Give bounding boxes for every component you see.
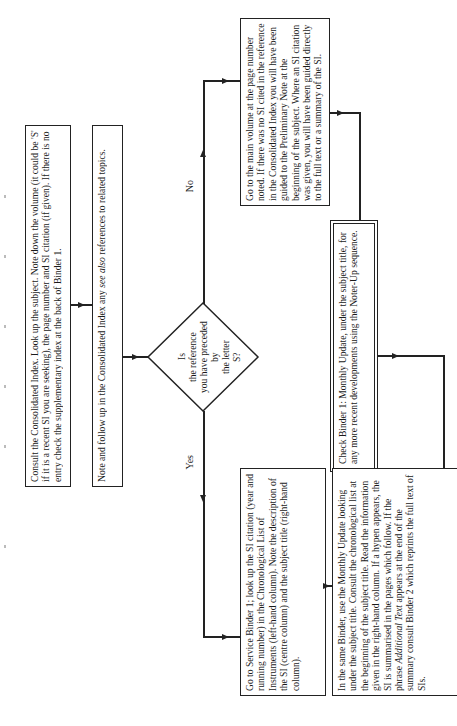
margin-mark: [4, 545, 6, 548]
connector-line: [378, 355, 445, 357]
arrow-right-icon: [323, 583, 330, 589]
margin-mark: [4, 195, 6, 198]
arrow-right-icon: [222, 634, 229, 640]
same-binder-box: In the same Binder, use the Monthly Upda…: [332, 468, 457, 696]
check-binder-box: Check Binder 1: Monthly Update, under th…: [330, 220, 378, 472]
consult-index-box: Consult the Consolidated Index. Look up …: [25, 125, 71, 487]
consult-index-text: Consult the Consolidated Index. Look up …: [26, 126, 70, 486]
service-binder-text: Go to Service Binder 1; look up the SI c…: [241, 469, 325, 695]
main-volume-text: Go to the main volume at the page number…: [241, 19, 329, 205]
arrow-right-icon: [132, 354, 139, 360]
check-binder-text: Check Binder 1: Monthly Update, under th…: [334, 224, 374, 468]
connector-line: [359, 112, 361, 220]
arrow-up-icon: [200, 150, 206, 157]
arrow-right-icon: [222, 78, 229, 84]
arrow-right-icon: [392, 353, 399, 359]
follow-up-box: Note and follow up in the Consolidated I…: [92, 125, 123, 487]
yes-label: Yes: [184, 455, 195, 470]
arrow-right-icon: [337, 110, 344, 116]
yes-branch-line: [203, 411, 205, 637]
no-branch-line: [203, 80, 205, 304]
no-label: No: [184, 180, 195, 192]
arrow-right-icon: [78, 302, 85, 308]
margin-mark: [4, 385, 6, 388]
same-binder-text: In the same Binder, use the Monthly Upda…: [333, 469, 457, 695]
connector-line: [443, 355, 445, 475]
arrow-down-icon: [200, 495, 206, 502]
connector-line: [330, 112, 360, 114]
margin-mark: [4, 255, 6, 258]
main-volume-box: Go to the main volume at the page number…: [240, 18, 330, 206]
margin-mark: [4, 445, 6, 448]
decision-text: Is the reference you have preceded by th…: [176, 318, 232, 396]
service-binder-box: Go to Service Binder 1; look up the SI c…: [240, 468, 326, 696]
margin-mark: [4, 325, 6, 328]
follow-up-text: Note and follow up in the Consolidated I…: [93, 126, 122, 486]
